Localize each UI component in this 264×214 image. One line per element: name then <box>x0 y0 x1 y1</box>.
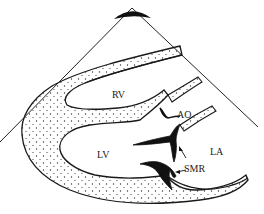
label-smr: SMR <box>184 163 205 174</box>
myocardium-wall <box>22 46 248 203</box>
label-rv: RV <box>112 89 126 100</box>
label-lv: LV <box>97 149 110 160</box>
label-la: LA <box>210 146 224 157</box>
transducer-icon <box>114 11 151 19</box>
aortic-wall <box>168 77 202 102</box>
echo-diagram: RV LV AO LA SMR <box>0 0 264 214</box>
label-ao: AO <box>177 109 191 120</box>
anterior-mitral-leaflet <box>133 124 180 162</box>
